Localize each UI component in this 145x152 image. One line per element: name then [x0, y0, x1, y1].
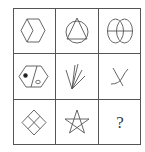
overlapping-ellipses-icon: [99, 8, 141, 53]
cell-diamond-grid: [13, 100, 55, 145]
cell-fan-lines: [56, 54, 98, 99]
cross-curve-icon: [99, 54, 141, 99]
cell-hexagon-dots: [13, 54, 55, 99]
figure-puzzle-grid: ?: [13, 8, 141, 145]
star-icon: [56, 100, 98, 145]
cell-answer-unknown: ?: [99, 100, 141, 145]
hexagon-dots-icon: [13, 54, 55, 99]
cell-hexagon-chevron: [13, 8, 55, 53]
cell-star: [56, 100, 98, 145]
fan-lines-icon: [56, 54, 98, 99]
question-mark: ?: [99, 100, 141, 145]
four-diamonds-icon: [13, 100, 55, 145]
triangle-in-circle-icon: [56, 8, 98, 53]
cell-cross-curve: [99, 54, 141, 99]
hexagon-chevron-icon: [13, 8, 55, 53]
cell-ellipses: [99, 8, 141, 53]
cell-triangle-circle: [56, 8, 98, 53]
